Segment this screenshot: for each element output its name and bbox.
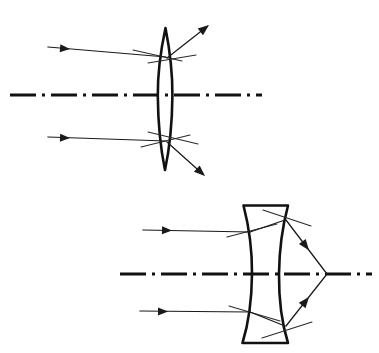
biconvex-lens-diagram (10, 25, 262, 176)
normal-mark-lower-exit-icon (148, 132, 198, 144)
incident-ray-upper-bottom-panel-arrowhead (162, 226, 172, 234)
optics-figure (0, 0, 379, 353)
internal-ray-lower-bottom-panel (250, 312, 285, 326)
incident-ray-lower-top-panel-arrowhead (60, 134, 70, 142)
incident-ray-upper-bottom-panel (143, 230, 250, 232)
internal-ray-upper-bottom-panel (250, 220, 285, 232)
refracted-ray-upper-top-panel-arrowhead (198, 25, 209, 35)
biconvex-lens-outline (158, 28, 173, 170)
optics-diagram-canvas (0, 0, 379, 353)
refracted-ray-upper-bottom-panel-arrowhead (299, 239, 309, 250)
incident-ray-lower-bottom-panel-arrowhead (158, 307, 168, 315)
refracted-ray-lower-bottom-panel-arrowhead (299, 297, 309, 308)
biconcave-lens-diagram (120, 206, 372, 344)
incident-ray-lower-bottom-panel (140, 311, 250, 312)
